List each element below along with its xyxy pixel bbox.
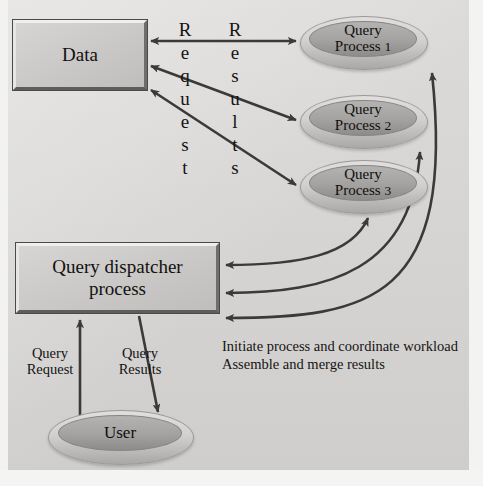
edge-data-qp2 (151, 66, 296, 120)
node-user[interactable]: User (48, 410, 192, 463)
qp1-line1: Query (344, 22, 382, 38)
dispatcher-label-line2: process (89, 278, 146, 299)
request-char-5: s (176, 135, 194, 158)
qp2-number: 2 (384, 118, 391, 133)
query-process-1-body: Query Process 1 (309, 21, 417, 57)
qp2-line2: Process (335, 117, 381, 133)
query-results-line1: Query (122, 345, 158, 361)
node-data-box[interactable]: Data (13, 20, 147, 90)
query-request-line1: Query (32, 345, 68, 361)
qp1-number: 1 (384, 39, 391, 54)
dispatcher-box-label: Query dispatcher process (52, 256, 182, 300)
user-label: User (104, 424, 136, 442)
query-process-3-label: Query Process 3 (335, 167, 391, 198)
edge-label-results: R e s u l t s (226, 20, 244, 181)
results-char-5: t (226, 135, 244, 158)
edge-label-query-request: Query Request (16, 345, 84, 377)
query-results-line2: Results (119, 361, 162, 377)
data-box-label: Data (62, 44, 98, 66)
request-char-3: u (176, 89, 194, 112)
request-char-6: t (176, 158, 194, 181)
dispatcher-notes: Initiate process and coordinate workload… (222, 337, 472, 373)
request-char-1: e (176, 43, 194, 66)
qp1-line2: Process (335, 38, 381, 54)
request-char-0: R (176, 20, 194, 43)
request-char-2: q (176, 66, 194, 89)
results-char-6: s (226, 158, 244, 181)
query-process-3-body: Query Process 3 (309, 165, 417, 201)
node-query-dispatcher-process[interactable]: Query dispatcher process (16, 243, 219, 313)
edge-dispatcher-qp3 (226, 218, 368, 265)
results-char-3: u (226, 89, 244, 112)
qp3-number: 3 (384, 183, 391, 198)
qp3-line2: Process (335, 182, 381, 198)
node-query-process-1[interactable]: Query Process 1 (300, 16, 426, 68)
results-char-0: R (226, 20, 244, 43)
dispatcher-label-line1: Query dispatcher (52, 256, 182, 277)
qp3-line1: Query (344, 166, 382, 182)
note-line-1: Initiate process and coordinate workload (222, 337, 472, 355)
results-char-4: l (226, 112, 244, 135)
results-char-1: e (226, 43, 244, 66)
diagram-canvas: Data Query dispatcher process Query Proc… (0, 0, 483, 486)
edge-data-qp3 (151, 90, 296, 185)
note-line-2: Assemble and merge results (222, 355, 472, 373)
results-char-2: s (226, 66, 244, 89)
edge-label-request: R e q u e s t (176, 20, 194, 181)
node-query-process-3[interactable]: Query Process 3 (300, 160, 426, 212)
request-char-4: e (176, 112, 194, 135)
query-process-2-body: Query Process 2 (309, 100, 417, 136)
node-query-process-2[interactable]: Query Process 2 (300, 95, 426, 147)
qp2-line1: Query (344, 101, 382, 117)
user-body: User (58, 415, 182, 451)
edge-label-query-results: Query Results (106, 345, 174, 377)
query-process-1-label: Query Process 1 (335, 23, 391, 54)
query-process-2-label: Query Process 2 (335, 102, 391, 133)
query-request-line2: Request (27, 361, 74, 377)
